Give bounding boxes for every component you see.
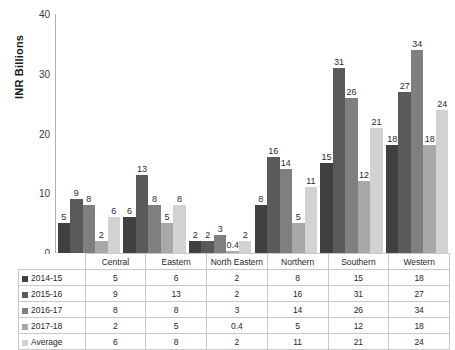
bar-value-label: 8 [152,194,157,204]
bar-rect[interactable] [370,128,383,253]
table-row: 2017-18250.451218 [19,318,450,334]
bar-rect[interactable] [189,241,202,253]
bar-2016-17-southern[interactable]: 26 [345,14,358,253]
bar-rect[interactable] [398,92,411,253]
bar-value-label: 27 [400,81,410,91]
bar-rect[interactable] [214,235,227,253]
table-col-header-north-eastern: North Eastern [207,254,268,270]
bar-2014-15-north-eastern[interactable]: 2 [189,14,202,253]
bar-value-label: 14 [281,158,291,168]
bar-rect[interactable] [386,145,399,253]
bar-rect[interactable] [148,205,161,253]
bar-2016-17-western[interactable]: 34 [411,14,424,253]
bar-2014-15-northern[interactable]: 8 [255,14,268,253]
bar-rect[interactable] [123,217,136,253]
bar-2017-18-southern[interactable]: 12 [358,14,371,253]
bar-value-label: 18 [387,134,397,144]
bar-2016-17-northern[interactable]: 14 [280,14,293,253]
bar-Average-southern[interactable]: 21 [370,14,383,253]
table-body: 2014-15562815182015-1691321631272016-178… [19,270,450,350]
bar-rect[interactable] [358,181,371,253]
bar-2017-18-northern[interactable]: 5 [292,14,305,253]
bar-rect[interactable] [436,110,449,253]
bar-group-central: 59826 [56,14,122,253]
bar-value-label: 8 [258,194,263,204]
bar-Average-central[interactable]: 6 [108,14,121,253]
bar-rect[interactable] [239,241,252,253]
table-cell: 11 [267,334,328,350]
bar-rect[interactable] [320,163,333,253]
y-axis-tick-20: 20 [26,128,50,139]
table-cell: 0.4 [207,318,268,334]
y-axis-tick-labels: 010203040 [26,14,50,253]
legend-item-2015-16[interactable]: 2015-16 [19,286,86,302]
legend-label: Average [31,337,63,347]
bar-value-label: 8 [177,194,182,204]
table-cell: 6 [85,334,146,350]
bar-Average-western[interactable]: 24 [436,14,449,253]
bar-2015-16-central[interactable]: 9 [70,14,83,253]
bar-Average-eastern[interactable]: 8 [173,14,186,253]
bar-2016-17-eastern[interactable]: 8 [148,14,161,253]
bar-2015-16-north-eastern[interactable]: 2 [201,14,214,253]
bar-rect[interactable] [333,68,346,253]
bar-rect[interactable] [70,199,83,253]
legend-swatch-icon [22,308,28,314]
bar-value-label: 18 [425,134,435,144]
bar-rect[interactable] [108,217,121,253]
table-cell: 24 [389,334,450,350]
bar-value-label: 2 [193,230,198,240]
bar-rect[interactable] [292,223,305,253]
bar-2014-15-central[interactable]: 5 [58,14,71,253]
table-cell: 8 [146,334,207,350]
bar-value-label: 6 [111,206,116,216]
bar-value-label: 15 [322,152,332,162]
bar-group-southern: 1531261221 [319,14,385,253]
bar-group-northern: 81614511 [253,14,319,253]
legend-item-2017-18[interactable]: 2017-18 [19,318,86,334]
bar-2015-16-southern[interactable]: 31 [333,14,346,253]
table-cell: 6 [146,270,207,286]
bar-2017-18-western[interactable]: 18 [423,14,436,253]
bar-2015-16-northern[interactable]: 16 [267,14,280,253]
bar-rect[interactable] [83,205,96,253]
bar-Average-north-eastern[interactable]: 2 [239,14,252,253]
y-axis-tick-10: 10 [26,188,50,199]
bar-2015-16-western[interactable]: 27 [398,14,411,253]
table-cell: 2 [207,334,268,350]
bar-rect[interactable] [255,205,268,253]
legend-item-Average[interactable]: Average [19,334,86,350]
bar-rect[interactable] [58,223,71,253]
bar-2017-18-north-eastern[interactable]: 0.4 [226,14,239,253]
bar-rect[interactable] [423,145,436,253]
legend-swatch-icon [22,276,28,282]
bar-2015-16-eastern[interactable]: 13 [136,14,149,253]
bar-rect[interactable] [280,169,293,253]
bar-value-label: 3 [218,224,223,234]
bar-rect[interactable] [305,187,318,253]
bar-2017-18-eastern[interactable]: 5 [161,14,174,253]
bar-rect[interactable] [173,205,186,253]
bar-value-label: 24 [437,99,447,109]
bar-2016-17-north-eastern[interactable]: 3 [214,14,227,253]
bar-2014-15-western[interactable]: 18 [386,14,399,253]
bar-rect[interactable] [411,50,424,253]
bar-2017-18-central[interactable]: 2 [95,14,108,253]
bar-rect[interactable] [201,241,214,253]
bar-value-label: 11 [306,176,315,186]
bar-2014-15-southern[interactable]: 15 [320,14,333,253]
bar-rect[interactable] [136,175,149,253]
table-cell: 15 [328,270,389,286]
bar-2014-15-eastern[interactable]: 6 [123,14,136,253]
bar-rect[interactable] [161,223,174,253]
bar-rect[interactable] [345,98,358,253]
bar-2016-17-central[interactable]: 8 [83,14,96,253]
bar-rect[interactable] [95,241,108,253]
table-cell: 21 [328,334,389,350]
legend-item-2016-17[interactable]: 2016-17 [19,302,86,318]
table-row: 2015-169132163127 [19,286,450,302]
legend-item-2014-15[interactable]: 2014-15 [19,270,86,286]
bar-Average-northern[interactable]: 11 [305,14,318,253]
table-cell: 8 [267,270,328,286]
bar-rect[interactable] [267,157,280,253]
